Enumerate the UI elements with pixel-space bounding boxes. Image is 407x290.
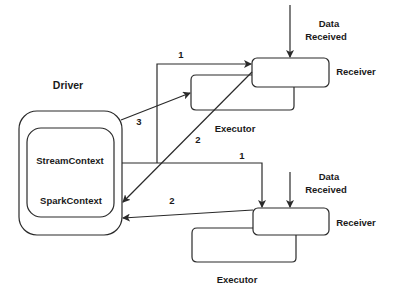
edge-3-label: 3 [136, 116, 141, 127]
top-data-received-label-1: Data [319, 18, 340, 29]
architecture-diagram: Driver StreamContext SparkContext Receiv… [0, 0, 407, 290]
edge-1-top: 1 [157, 49, 251, 163]
bottom-data-received-label-2: Received [305, 184, 347, 195]
top-executor-label: Executor [215, 123, 256, 134]
bottom-receiver-box [253, 208, 329, 235]
edge-2-top-line [123, 72, 252, 202]
edge-3-line [121, 93, 190, 120]
edge-2-bottom: 2 [123, 195, 253, 218]
edge-2-top: 2 [123, 72, 252, 202]
edge-1-top-line [157, 64, 251, 163]
bottom-data-received-label-1: Data [319, 171, 340, 182]
edge-1-top-label: 1 [178, 49, 184, 60]
spark-context-label: SparkContext [40, 195, 103, 206]
top-receiver-box [252, 58, 329, 87]
edge-3: 3 [121, 93, 190, 127]
bottom-receiver-label: Receiver [336, 217, 376, 228]
driver-title: Driver [53, 79, 83, 91]
top-receiver-label: Receiver [336, 66, 376, 77]
stream-context-label: StreamContext [36, 155, 104, 166]
driver-node: Driver StreamContext SparkContext [19, 79, 122, 235]
bottom-worker-node: Receiver Executor Data Received [192, 171, 376, 285]
edge-1-bottom-label: 1 [239, 150, 245, 161]
edge-1-bottom: 1 [122, 150, 262, 207]
top-data-received-label-2: Received [305, 31, 347, 42]
bottom-executor-label: Executor [217, 274, 258, 285]
top-worker-node: Receiver Executor Data Received [191, 5, 376, 134]
edge-2-bottom-label: 2 [169, 195, 174, 206]
edge-2-bottom-line [123, 210, 253, 218]
edge-2-top-label: 2 [195, 134, 200, 145]
edge-1-bottom-line [122, 163, 262, 207]
